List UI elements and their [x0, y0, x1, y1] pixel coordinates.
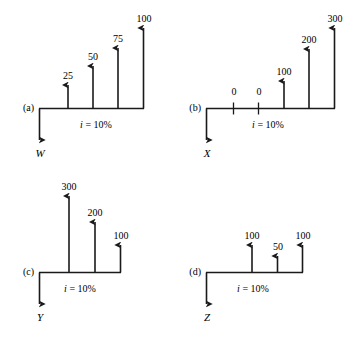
- panel-b-rate-value: = 10%: [255, 119, 284, 130]
- panel-a-value-4: 100: [137, 14, 152, 24]
- panel-d-diagram: [206, 245, 303, 304]
- panel-a-value-3: 75: [113, 34, 123, 44]
- panel-d-label: (d): [189, 267, 201, 277]
- panel-a-value-1: 25: [63, 71, 73, 81]
- panel-d-value-1: 100: [245, 231, 260, 241]
- panel-b-value-3: 100: [277, 67, 292, 77]
- panel-d-value-3: 100: [296, 231, 311, 241]
- panel-c-label: (c): [23, 267, 34, 277]
- panel-a-value-2: 50: [88, 52, 98, 62]
- cash-flow-diagram-figure: (a) 25 50 75 100 i = 10% W (b) 0 0 100 2…: [0, 0, 362, 350]
- panel-d-rate-value: = 10%: [240, 283, 269, 294]
- panel-b-interest-rate: i = 10%: [252, 120, 284, 130]
- panel-a-rate-value: = 10%: [83, 119, 112, 130]
- panel-a-interest-rate: i = 10%: [80, 120, 112, 130]
- panel-b-value-1: 0: [232, 87, 237, 97]
- panel-c-value-3: 100: [114, 231, 129, 241]
- panel-c-value-2: 200: [88, 208, 103, 218]
- cash-flow-diagram-canvas: [0, 0, 362, 350]
- panel-a-label: (a): [23, 103, 34, 113]
- panel-c-interest-rate: i = 10%: [64, 284, 96, 294]
- panel-b-label: (b): [189, 103, 201, 113]
- panel-b-value-2: 0: [257, 87, 262, 97]
- panel-b-unknown-label: X: [204, 148, 211, 159]
- panel-b-value-4: 200: [302, 35, 317, 45]
- panel-b-value-5: 300: [328, 14, 343, 24]
- panel-d-interest-rate: i = 10%: [237, 284, 269, 294]
- panel-a-unknown-label: W: [35, 148, 44, 159]
- panel-d-unknown-label: Z: [204, 312, 210, 323]
- panel-c-rate-value: = 10%: [67, 283, 96, 294]
- panel-c-unknown-label: Y: [37, 312, 43, 323]
- panel-d-value-2: 50: [273, 242, 283, 252]
- panel-c-value-1: 300: [62, 182, 77, 192]
